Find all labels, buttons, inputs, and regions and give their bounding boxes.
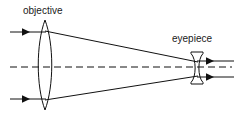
arrow-head-incoming-lower-icon: [22, 95, 30, 103]
objective-label: objective: [23, 5, 63, 16]
optics-ray-diagram-canvas: objective eyepiece: [0, 0, 239, 126]
converging-ray-lower: [45, 76, 198, 100]
eyepiece-label: eyepiece: [172, 33, 212, 44]
objective-lens: [38, 20, 52, 110]
eyepiece-lens: [191, 52, 203, 84]
arrow-head-outgoing-upper-icon: [206, 57, 214, 65]
arrow-head-outgoing-lower-icon: [206, 73, 214, 81]
arrow-head-incoming-upper-icon: [22, 28, 30, 36]
optics-diagram: objective eyepiece: [0, 0, 239, 126]
